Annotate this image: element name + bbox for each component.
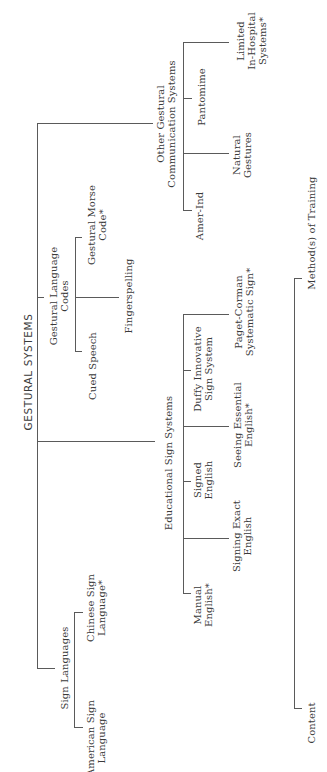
branch-line-educational: [37, 441, 155, 442]
tick: [183, 42, 229, 43]
codes-children-line: [75, 237, 76, 352]
other-children-line: [183, 42, 184, 211]
tick: [75, 237, 82, 238]
branch-line-other: [37, 123, 153, 124]
tick: [75, 297, 119, 298]
tick: [183, 481, 191, 482]
tick: [183, 98, 192, 99]
axis-bracket-line: [294, 278, 295, 709]
sign-languages-children-line: [74, 612, 75, 728]
tick: [294, 278, 302, 279]
tick: [183, 426, 229, 427]
tick: [183, 538, 229, 539]
tick: [183, 370, 191, 371]
tick: [75, 351, 82, 352]
trunk-line: [37, 123, 38, 669]
tick: [183, 314, 229, 315]
tick: [183, 593, 191, 594]
tick: [74, 727, 83, 728]
tick: [183, 210, 192, 211]
branch-line-sign-languages: [37, 668, 55, 669]
branch-line-codes: [37, 297, 44, 298]
tick: [294, 708, 302, 709]
educational-children-line: [183, 314, 184, 594]
tick: [74, 612, 83, 613]
tick: [183, 153, 229, 154]
